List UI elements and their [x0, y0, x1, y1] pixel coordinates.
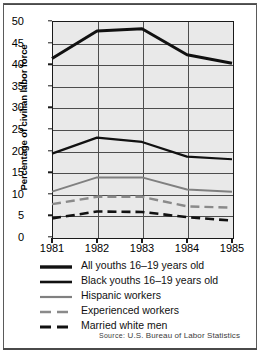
legend-item[interactable]: Experienced workers	[40, 302, 250, 317]
y-tick-label: 15	[0, 166, 24, 178]
y-tick-label: 40	[0, 58, 24, 70]
y-tick-label: 5	[0, 209, 24, 221]
y-tick-mark	[48, 128, 52, 129]
x-tick-mark	[96, 238, 97, 243]
x-tick-mark	[141, 238, 142, 243]
y-tick-mark	[48, 150, 52, 151]
legend-label: Hispanic workers	[81, 289, 161, 301]
y-tick-mark	[48, 107, 52, 108]
legend-swatch-icon	[40, 274, 72, 286]
series-layer	[52, 21, 232, 237]
legend-swatch-icon	[40, 304, 72, 316]
source-text: U.S. Bureau of Labor Statistics	[128, 331, 241, 340]
legend-swatch-icon	[40, 319, 72, 331]
legend-label: Married white men	[81, 319, 167, 331]
legend-item[interactable]: All youths 16–19 years old	[40, 257, 250, 272]
series-line	[52, 197, 232, 208]
y-tick-mark	[48, 193, 52, 194]
y-tick-label: 10	[0, 188, 24, 200]
legend-swatch-icon	[40, 259, 72, 271]
legend-swatch-icon	[40, 289, 72, 301]
x-tick-mark	[51, 238, 52, 243]
x-tick-label: 1982	[85, 242, 109, 254]
y-tick-mark	[48, 42, 52, 43]
y-tick-mark	[48, 63, 52, 64]
x-tick-label: 1985	[220, 242, 244, 254]
legend-item[interactable]: Hispanic workers	[40, 287, 250, 302]
legend-item[interactable]: Married white men	[40, 317, 250, 332]
frame-rule-bottom	[3, 348, 257, 350]
chart-figure: Percentage of civilian labor force 05101…	[0, 0, 260, 353]
legend-label: Black youths 16–19 years old	[81, 274, 218, 286]
source-note: Source: U.S. Bureau of Labor Statistics	[40, 331, 240, 340]
y-tick-mark	[48, 171, 52, 172]
y-tick-label: 25	[0, 123, 24, 135]
y-tick-label: 30	[0, 101, 24, 113]
legend-label: All youths 16–19 years old	[81, 259, 204, 271]
x-tick-label: 1984	[175, 242, 199, 254]
series-line	[52, 177, 232, 191]
x-tick-mark	[186, 238, 187, 243]
chart-legend: All youths 16–19 years oldBlack youths 1…	[40, 257, 250, 332]
y-tick-label: 35	[0, 80, 24, 92]
y-tick-label: 0	[0, 231, 24, 243]
x-tick-mark	[231, 238, 232, 243]
y-tick-mark	[48, 215, 52, 216]
series-line	[52, 29, 232, 64]
series-line	[52, 212, 232, 221]
source-prefix: Source:	[99, 332, 125, 339]
legend-label: Experienced workers	[81, 304, 179, 316]
y-tick-label: 45	[0, 37, 24, 49]
y-tick-label: 20	[0, 145, 24, 157]
x-tick-label: 1983	[130, 242, 154, 254]
y-tick-mark	[48, 20, 52, 21]
y-tick-label: 50	[0, 15, 24, 27]
legend-item[interactable]: Black youths 16–19 years old	[40, 272, 250, 287]
line-chart: Percentage of civilian labor force 05101…	[0, 0, 260, 250]
y-tick-mark	[48, 85, 52, 86]
x-tick-label: 1981	[40, 242, 64, 254]
series-line	[52, 138, 232, 160]
